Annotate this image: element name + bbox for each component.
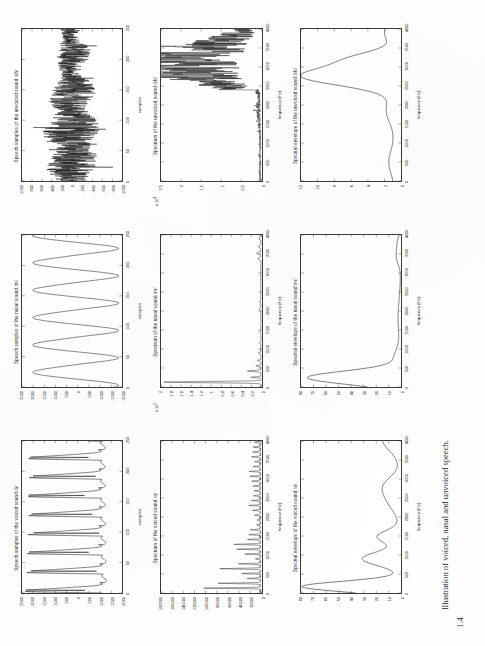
- voiced-spectrum-curve: [161, 441, 261, 593]
- panel-voiced-samples: Speech samples of the voiced sound /a/ -…: [14, 436, 143, 620]
- y-tick: 800: [29, 185, 34, 192]
- y-tick-labels: -2000-1500-1000-50005001000150020002500: [21, 596, 123, 620]
- x-tick: 4000: [404, 436, 409, 445]
- y-tick: 2: [382, 185, 387, 187]
- x-tick: 50: [125, 149, 130, 153]
- y-tick: 500: [64, 597, 69, 604]
- panel-voiced-spectrum: Spectrum of the voiced sound /a/ 0200004…: [153, 436, 282, 620]
- panel-unvoiced-samples: Speech samples of the unvoiced sound /sh…: [14, 24, 143, 208]
- y-tick: -400: [90, 185, 95, 193]
- x-tick: 3000: [404, 474, 409, 483]
- y-tick: 400: [49, 185, 54, 192]
- x-tick: 1500: [404, 120, 409, 129]
- x-tick: 500: [265, 572, 270, 579]
- y-tick: 140000: [181, 597, 186, 610]
- x-tick: 4000: [404, 230, 409, 239]
- x-tick: 0: [265, 387, 270, 389]
- y-tick: 80: [297, 391, 302, 395]
- x-tick: 500: [265, 366, 270, 373]
- y-tick: -800: [111, 185, 116, 193]
- y-tick-labels: 00.511.522.5: [160, 184, 262, 208]
- panel-voiced-envelope: Spectral envelope of the voiced sound /a…: [293, 436, 422, 620]
- y-tick: 1: [209, 391, 214, 393]
- x-tick: 3500: [265, 249, 270, 258]
- x-tick: 100: [125, 323, 130, 330]
- plot-area: [300, 234, 402, 388]
- x-tick: 4000: [404, 24, 409, 33]
- panel-title: Spectrum of the voiced sound /a/: [153, 436, 159, 620]
- x-tick: 100: [125, 117, 130, 124]
- y-tick: 2: [158, 391, 163, 393]
- y-tick: 2000: [30, 391, 35, 400]
- panel-nasal-spectrum: Spectrum of the nasal sound /m/ x 105 00…: [153, 230, 282, 414]
- y-tick: 60: [323, 597, 328, 601]
- y-tick-labels: 01020304050607080: [300, 596, 402, 620]
- x-tick: 1500: [265, 532, 270, 541]
- x-tick-labels: 05001000150020002500300035004000: [404, 234, 412, 388]
- y-tick-labels: -2000-1500-1000-50005001000150020002500: [21, 390, 123, 414]
- plot-area: [300, 28, 402, 182]
- y-tick: 0.6: [229, 391, 234, 396]
- x-tick: 2000: [265, 101, 270, 110]
- panel-title: Spectral envelope of the voiced sound /a…: [293, 436, 299, 620]
- nasal-envelope-curve: [301, 235, 401, 387]
- y-tick: 1500: [41, 597, 46, 606]
- y-tick-labels: 00.20.40.60.811.21.41.61.82: [160, 390, 262, 414]
- x-tick: 250: [125, 231, 130, 238]
- y-tick: -500: [87, 391, 92, 399]
- figure-caption: Illustration of voiced, nasal and unvoic…: [440, 50, 450, 610]
- x-tick-labels: 05001000150020002500300035004000: [404, 28, 412, 182]
- y-tick: -1000: [98, 597, 103, 607]
- nasal-waveform-curve: [22, 235, 122, 387]
- y-tick: 0: [260, 185, 265, 187]
- panel-nasal-envelope: Spectral envelope of the nasal sound /m/…: [293, 230, 422, 414]
- plot-area: [160, 28, 262, 182]
- y-tick: -1000: [98, 391, 103, 401]
- y-tick-labels: 0200004000060000800001000001200001400001…: [160, 596, 262, 620]
- y-tick: 0: [260, 597, 265, 599]
- x-tick: 2500: [265, 493, 270, 502]
- y-tick: 0: [75, 597, 80, 599]
- x-tick: 0: [404, 181, 409, 183]
- x-tick: 50: [125, 355, 130, 359]
- x-tick: 1000: [265, 345, 270, 354]
- x-tick: 3500: [404, 43, 409, 52]
- y-tick: -600: [100, 185, 105, 193]
- y-tick: 80: [297, 597, 302, 601]
- x-tick: 2000: [404, 101, 409, 110]
- y-tick: 80000: [215, 597, 220, 608]
- y-tick: 100000: [203, 597, 208, 610]
- panel-title: Spectrum of the unvoiced sound /sh/: [153, 24, 159, 208]
- y-tick: 120000: [192, 597, 197, 610]
- x-tick: 150: [125, 86, 130, 93]
- x-axis-label: samples: [137, 234, 142, 388]
- y-tick: 2500: [19, 391, 24, 400]
- y-tick: 1000: [19, 185, 24, 194]
- y-tick: -500: [87, 597, 92, 605]
- x-tick: 1500: [265, 326, 270, 335]
- voiced-envelope-curve: [301, 441, 401, 593]
- x-tick: 200: [125, 56, 130, 63]
- y-tick: 1.4: [189, 391, 194, 396]
- panel-unvoiced-spectrum: Spectrum of the unvoiced sound /sh/ x 10…: [153, 24, 282, 208]
- unvoiced-envelope-curve: [301, 29, 401, 181]
- x-axis-label: samples: [137, 440, 142, 594]
- x-tick: 3500: [404, 249, 409, 258]
- y-tick: 20: [374, 391, 379, 395]
- y-tick: 0: [399, 597, 404, 599]
- y-tick: 1.6: [178, 391, 183, 396]
- x-tick-labels: 05001000150020002500300035004000: [265, 234, 273, 388]
- x-tick: 2500: [265, 287, 270, 296]
- y-tick: 1.8: [168, 391, 173, 396]
- plot-area: [160, 234, 262, 388]
- x-tick: 0: [404, 593, 409, 595]
- y-tick: 10: [387, 391, 392, 395]
- y-tick: 1000: [53, 391, 58, 400]
- x-axis-label: frequency (Hz): [277, 440, 282, 594]
- panel-unvoiced-envelope: Spectral envelope of the unvoiced sound …: [293, 24, 422, 208]
- y-tick: 2.5: [158, 185, 163, 190]
- x-tick-labels: 05001000150020002500300035004000: [265, 440, 273, 594]
- y-tick: 60: [323, 391, 328, 395]
- y-tick: 1.2: [199, 391, 204, 396]
- y-tick: -1500: [109, 391, 114, 401]
